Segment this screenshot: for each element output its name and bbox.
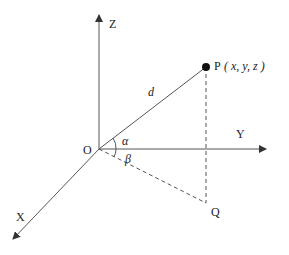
y-axis-label: Y (236, 127, 245, 141)
distance-label: d (148, 85, 155, 99)
point-p-coords: ( x, y, z ) (224, 59, 265, 73)
projection-line-oq (99, 149, 206, 203)
point-p-label: P (214, 59, 221, 73)
alpha-arc (113, 138, 116, 149)
coordinate-diagram: Z Y X O P ( x, y, z ) Q d α β (0, 0, 289, 255)
beta-arc (114, 149, 116, 157)
alpha-label: α (122, 134, 129, 148)
z-axis-label: Z (109, 17, 116, 31)
x-axis (13, 149, 99, 239)
x-axis-label: X (16, 210, 25, 224)
beta-label: β (124, 152, 131, 166)
point-p-dot (202, 63, 210, 71)
point-q-label: Q (211, 205, 220, 219)
origin-label: O (83, 143, 92, 157)
distance-line-op (99, 67, 206, 149)
